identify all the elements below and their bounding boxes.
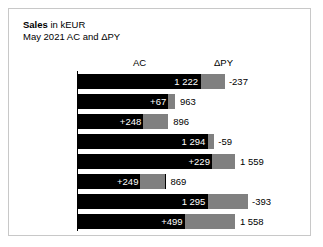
- value-label-delta-berne: -393: [252, 194, 271, 209]
- value-label-delta-rome: +248: [78, 114, 141, 129]
- plot-area: AC ΔPY Berlin1 222-237Paris963+67Rome896…: [9, 9, 312, 237]
- column-header-dpy: ΔPY: [214, 57, 233, 68]
- value-label-ac-berne: 1 295: [78, 194, 205, 209]
- value-label-ac-paris: 963: [180, 94, 196, 109]
- value-label-delta-nyc: -59: [218, 134, 232, 149]
- value-label-ac-stockholm: 869: [171, 174, 187, 189]
- bar-delta-stockholm: [140, 174, 165, 189]
- chart-frame: Sales in kEUR May 2021 AC and ΔPY AC ΔPY…: [8, 8, 311, 236]
- bar-delta-london: [185, 214, 235, 229]
- bar-delta-rome: [143, 114, 168, 129]
- value-label-ac-berlin: 1 222: [78, 74, 198, 89]
- bar-delta-paris: [168, 94, 175, 109]
- value-label-ac-vienna: 1 559: [240, 154, 264, 169]
- value-label-ac-nyc: 1 294: [78, 134, 205, 149]
- bar-delta-berlin: [201, 74, 225, 89]
- value-label-delta-paris: +67: [78, 94, 166, 109]
- value-label-ac-rome: 896: [173, 114, 189, 129]
- bar-delta-vienna: [212, 154, 235, 169]
- bar-delta-berne: [208, 194, 248, 209]
- value-label-ac-london: 1 558: [240, 214, 264, 229]
- value-label-delta-london: +499: [78, 214, 183, 229]
- bar-delta-nyc: [208, 134, 214, 149]
- value-label-delta-stockholm: +249: [78, 174, 138, 189]
- value-label-delta-vienna: +229: [78, 154, 210, 169]
- column-header-ac: AC: [133, 57, 146, 68]
- value-label-delta-berlin: -237: [229, 74, 248, 89]
